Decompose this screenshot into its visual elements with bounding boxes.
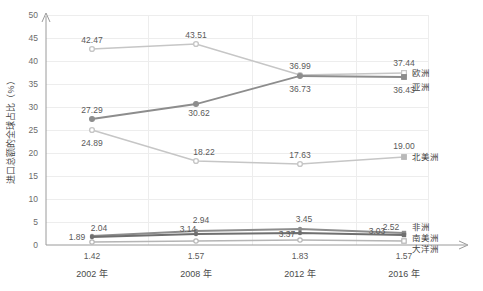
x-tick-value: 1.42 [84,251,101,261]
data-label: 3.14 [180,224,197,234]
europe-point [90,47,95,52]
y-axis [42,13,50,245]
y-tick-label: 30 [29,102,39,112]
north-america-point [402,155,407,160]
north-america-polyline [92,130,404,164]
y-tick-labels: 50 45 40 35 30 25 20 15 10 5 0 [29,10,39,250]
oceania-point [90,240,94,244]
data-label: 18.22 [193,147,215,157]
data-labels-europe: 42.47 43.51 36.99 37.44 [81,30,415,71]
north-america-point [298,162,303,167]
south-america-point [298,231,302,235]
data-label: 2.04 [91,223,108,233]
data-label: 37.44 [393,58,415,68]
y-tick-label: 20 [29,148,39,158]
y-tick-label: 25 [29,125,39,135]
series-line-oceania [90,238,406,244]
data-label: 3.37 [279,229,296,239]
data-label: 27.29 [81,105,103,115]
line-chart: 50 45 40 35 30 25 20 15 10 5 0 进口总额的全球占比… [0,0,483,291]
north-america-point [90,128,95,133]
data-label: 43.51 [185,30,207,40]
north-america-point [194,159,199,164]
y-tick-label: 40 [29,56,39,66]
y-tick-label: 0 [33,240,38,250]
series-line-asia [90,74,407,122]
legend: 欧洲 亚洲 北美洲 非洲 南美洲 大洋洲 [412,68,439,254]
data-label: 3.03 [369,226,386,236]
y-tick-label: 10 [29,194,39,204]
data-label: 1.89 [69,232,86,242]
oceania-polyline [92,240,404,242]
south-america-point [90,235,94,239]
asia-point [90,117,95,122]
africa-point [298,227,302,231]
legend-item-north-america[interactable]: 北美洲 [412,152,439,162]
x-axis-year-label: 2012 年 [284,268,316,279]
y-tick-label: 45 [29,33,39,43]
data-label: 36.99 [289,61,311,71]
horizontal-gridlines [46,15,428,222]
y-tick-label: 35 [29,79,39,89]
oceania-point [298,238,302,242]
y-tick-label: 15 [29,171,39,181]
legend-item-asia[interactable]: 亚洲 [412,82,430,92]
legend-item-oceania[interactable]: 大洋洲 [412,244,439,254]
asia-point [402,75,407,80]
series-line-north-america [90,128,407,167]
x-tick-values: 1.42 1.57 1.83 1.57 [84,251,413,261]
data-label: 19.00 [393,141,415,151]
series-line-europe [90,42,407,78]
oceania-point [402,239,406,243]
europe-point [194,42,199,47]
data-label: 36.73 [289,84,311,94]
europe-polyline [92,44,404,75]
y-tick-label: 5 [33,217,38,227]
x-tick-value: 1.83 [292,251,309,261]
data-label: 30.62 [188,108,210,118]
y-tick-label: 50 [29,10,39,20]
y-axis-title: 进口总额的全球占比（%） [5,76,16,183]
x-axis-year-label: 2008 年 [180,268,212,279]
x-axis-year-label: 2002 年 [76,268,108,279]
legend-item-south-america[interactable]: 南美洲 [412,233,439,243]
data-label: 24.89 [81,138,103,148]
oceania-point [194,239,198,243]
chart-svg: 50 45 40 35 30 25 20 15 10 5 0 进口总额的全球占比… [0,0,483,291]
asia-polyline [92,76,404,119]
x-tick-value: 1.57 [396,251,413,261]
data-label: 42.47 [81,35,103,45]
x-tick-value: 1.57 [188,251,205,261]
legend-item-africa[interactable]: 非洲 [412,222,430,232]
x-tick-years: 2002 年 2008 年 2012 年 2016 年 [76,268,420,279]
south-america-point [402,233,406,237]
asia-point [298,74,303,79]
legend-item-europe[interactable]: 欧洲 [412,68,430,78]
data-label: 3.45 [296,214,313,224]
asia-point [194,102,199,107]
data-label: 17.63 [289,150,311,160]
x-axis-year-label: 2016 年 [388,268,420,279]
